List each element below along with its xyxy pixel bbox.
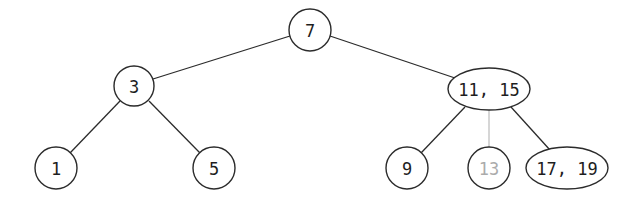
- tree-node-n1719: 17, 19: [526, 147, 608, 189]
- edge-n7-n3: [153, 36, 290, 79]
- edge-n1115-n1719: [511, 107, 550, 150]
- tree-diagram: 7311, 151591317, 19: [0, 0, 640, 206]
- node-label: 1: [51, 159, 61, 179]
- edge-n3-n5: [149, 101, 200, 153]
- edge-n7-n1115: [330, 36, 455, 78]
- node-label: 11, 15: [458, 80, 519, 100]
- edge-n3-n1: [70, 101, 120, 153]
- nodes-layer: 7311, 151591317, 19: [35, 9, 608, 189]
- node-label: 3: [129, 77, 139, 97]
- node-label: 17, 19: [536, 159, 597, 179]
- tree-node-n13: 13: [468, 147, 510, 189]
- tree-node-n5: 5: [193, 147, 235, 189]
- node-label: 5: [209, 159, 219, 179]
- tree-node-n3: 3: [114, 66, 154, 106]
- tree-node-n7: 7: [289, 9, 331, 51]
- node-label: 13: [479, 159, 499, 179]
- tree-node-n1115: 11, 15: [448, 68, 530, 110]
- tree-node-n1: 1: [35, 147, 77, 189]
- node-label: 7: [305, 21, 315, 41]
- edge-n1115-n9: [421, 107, 465, 153]
- node-label: 9: [402, 159, 412, 179]
- tree-node-n9: 9: [386, 147, 428, 189]
